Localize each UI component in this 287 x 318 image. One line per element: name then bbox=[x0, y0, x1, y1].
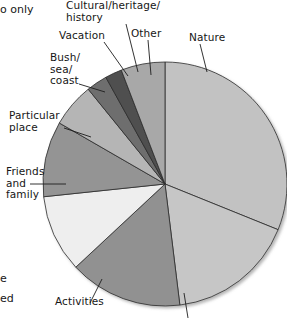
slice-label-vacation: Vacation bbox=[59, 30, 105, 42]
slice-label-activities: Activities bbox=[55, 296, 104, 308]
cropped-text-bottom-left-2: ed bbox=[0, 292, 14, 305]
leader-vacation bbox=[104, 42, 128, 76]
slice-label-nature: Nature bbox=[189, 32, 225, 44]
slice-label-other: Other bbox=[131, 28, 161, 40]
cropped-text-top-left: o only bbox=[0, 3, 34, 16]
pie-chart-svg bbox=[0, 0, 287, 318]
slice-label-particular-place: Particular place bbox=[9, 110, 60, 133]
pie-chart-figure: o only e ed Nature Other Cultural/herita… bbox=[0, 0, 287, 318]
slice-label-bush-sea-coast: Bush/ sea/ coast bbox=[50, 52, 80, 87]
cropped-text-bottom-left-1: e bbox=[0, 272, 7, 285]
slice-label-cultural-heritage-history: Cultural/heritage/ history bbox=[66, 0, 160, 23]
slice-label-friends-and-family: Friends and family bbox=[6, 166, 44, 201]
pie-slices-group bbox=[43, 62, 287, 306]
